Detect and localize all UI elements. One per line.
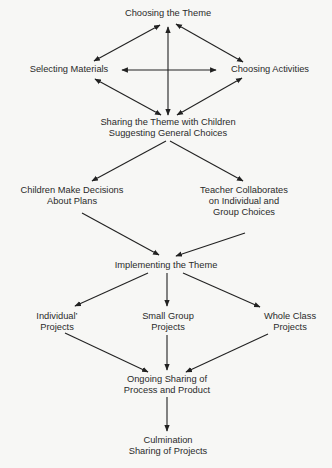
node-individual-projects: Individual’ Projects [36,311,77,333]
node-selecting-materials: Selecting Materials [30,64,109,75]
node-implementing: Implementing the Theme [115,260,218,271]
node-small-group-projects: Small Group Projects [142,311,194,333]
node-ongoing-sharing: Ongoing Sharing of Process and Product [124,374,210,396]
node-whole-class-projects: Whole Class Projects [264,311,316,333]
node-sharing-theme: Sharing the Theme with Children Suggesti… [100,117,235,139]
node-children-decide: Children Make Decisions About Plans [21,185,124,207]
node-teacher-collaborates: Teacher Collaborates on Individual and G… [200,185,288,218]
node-choosing-activities: Choosing Activities [231,64,309,75]
node-culmination: Culmination Sharing of Projects [129,435,208,457]
node-choosing-theme: Choosing the Theme [125,8,211,19]
